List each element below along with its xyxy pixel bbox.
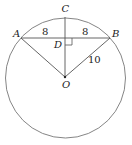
measure-db: 8 [82,26,88,37]
label-o: O [62,79,70,90]
right-angle-mark [65,38,72,45]
geometry-diagram: C A B D O 8 8 10 [0,0,132,145]
label-c: C [62,3,70,14]
label-d: D [53,39,62,50]
measure-ob: 10 [88,54,101,65]
label-b: B [111,28,119,39]
label-a: A [12,28,20,39]
measure-ad: 8 [42,26,48,37]
center-point [64,76,66,78]
